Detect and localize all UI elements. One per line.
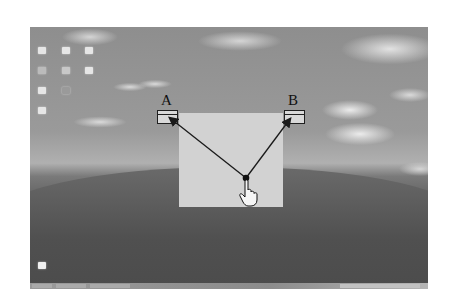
arrow-to-b <box>246 119 290 178</box>
drag-arrows <box>0 0 458 304</box>
hand-pointer-icon <box>240 180 257 206</box>
arrow-to-a <box>170 118 246 178</box>
